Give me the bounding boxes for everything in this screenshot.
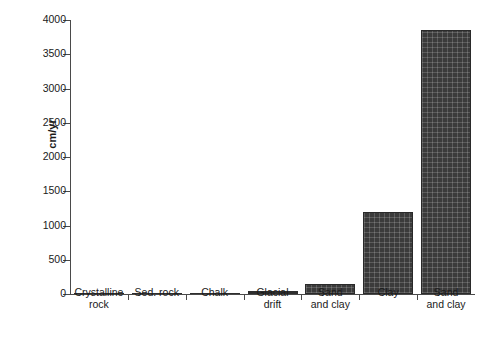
y-tick-label: 3500 bbox=[20, 47, 66, 59]
y-tick-label: 1000 bbox=[20, 219, 66, 231]
y-tick-label: 2000 bbox=[20, 150, 66, 162]
x-axis-label: Glacial drift bbox=[244, 286, 302, 310]
x-axis-label: Sand and clay bbox=[417, 286, 475, 310]
y-tick-label: 500 bbox=[20, 253, 66, 265]
x-axis-label: Crystalline rock bbox=[70, 286, 128, 310]
y-tick-label: 4000 bbox=[20, 13, 66, 25]
y-tick-label: 3000 bbox=[20, 82, 66, 94]
bar-chart: cm/yr 05001000150020002500300035004000 C… bbox=[0, 0, 484, 350]
y-tick-label: 2500 bbox=[20, 116, 66, 128]
y-tick-label: 0 bbox=[20, 287, 66, 299]
bar bbox=[363, 212, 413, 294]
bar bbox=[421, 30, 471, 294]
x-axis-label: Sand and clay bbox=[301, 286, 359, 310]
y-tick-label: 1500 bbox=[20, 184, 66, 196]
y-axis-line bbox=[70, 20, 71, 294]
y-axis-title: cm/yr bbox=[46, 94, 58, 174]
x-axis-label: Clay bbox=[359, 286, 417, 298]
x-axis-label: Chalk bbox=[186, 286, 244, 298]
x-axis-label: Sed. rock bbox=[128, 286, 186, 298]
plot-area: 05001000150020002500300035004000 bbox=[70, 20, 475, 294]
